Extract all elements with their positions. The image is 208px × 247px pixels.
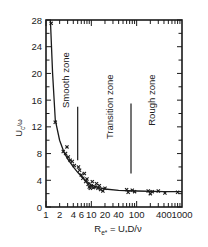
x-axis-label: Re* = U*D/ν (94, 223, 142, 236)
y-axis-label: Uc/ω (13, 119, 26, 137)
data-point-marker (65, 145, 68, 148)
cut-off-caption (4, 238, 204, 247)
y-tick-label: 28 (31, 15, 42, 26)
x-tick-label: 4 (71, 209, 76, 220)
y-tick-label: 20 (31, 68, 42, 79)
y-tick-label: 24 (31, 41, 42, 52)
data-point-marker (83, 172, 86, 175)
data-point-marker (95, 182, 98, 185)
data-point-marker (91, 180, 94, 183)
zone-label: Transition zone (104, 75, 115, 140)
data-point-marker (78, 169, 81, 172)
y-tick-label: 4 (37, 175, 42, 186)
data-point-marker (77, 165, 80, 168)
y-tick-label: 8 (37, 148, 42, 159)
x-tick-label: 10 (86, 209, 97, 220)
y-tick-label: 16 (31, 95, 42, 106)
x-tick-label: 100 (129, 209, 145, 220)
x-tick-label: 20 (100, 209, 111, 220)
y-tick-label: 12 (31, 121, 42, 132)
x-tick-label: 40 (113, 209, 124, 220)
x-tick-label: 400 (156, 209, 172, 220)
zone-label: Smooth zone (60, 52, 71, 108)
zone-labels: Smooth zoneTransition zoneRough zone (60, 52, 157, 139)
y-tick-label: 0 (37, 202, 42, 213)
x-tick-label: 1 (43, 209, 48, 220)
zone-label: Rough zone (146, 75, 157, 126)
chart-canvas: 124610204010040010000481216202428 Smooth… (0, 0, 208, 247)
x-tick-label: 6 (79, 209, 84, 220)
x-tick-label: 2 (57, 209, 62, 220)
x-tick-label: 1000 (171, 209, 192, 220)
